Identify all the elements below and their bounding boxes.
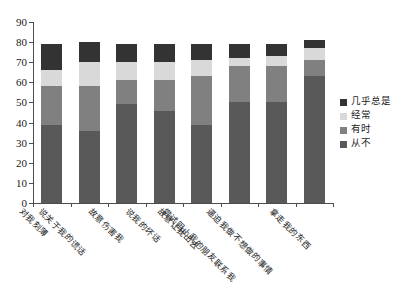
bar-segment: [304, 48, 325, 60]
x-tick: [296, 203, 297, 207]
x-tick: [108, 203, 109, 207]
bar-segment: [41, 125, 62, 203]
bar-stack: [154, 44, 175, 203]
y-tick-label: 50: [0, 97, 27, 108]
legend-label: 几乎总是: [351, 97, 391, 107]
legend-swatch-icon: [340, 141, 347, 148]
bar-segment: [191, 44, 212, 60]
stacked-bar-chart: 0102030405060708090 对我刻薄说关于我的谎话故意伤害我说我的坏…: [0, 0, 417, 307]
plot-area: [33, 22, 333, 203]
bar-segment: [154, 111, 175, 204]
bar-stack: [304, 40, 325, 203]
y-tick: [29, 82, 33, 83]
legend-label: 有时: [351, 125, 371, 135]
legend-swatch-icon: [340, 113, 347, 120]
x-tick: [33, 203, 34, 207]
bar-segment: [116, 44, 137, 62]
y-tick-label: 30: [0, 137, 27, 148]
bar-segment: [154, 44, 175, 62]
bar-segment: [79, 62, 100, 86]
bar-stack: [191, 44, 212, 203]
bar-segment: [191, 76, 212, 124]
y-tick-label: 90: [0, 17, 27, 28]
legend-label: 从不: [351, 139, 371, 149]
x-axis-label: 尝试阻止我的朋友联系我: [161, 207, 237, 283]
legend-item: 有时: [340, 123, 391, 137]
bar-segment: [154, 62, 175, 80]
bar-segment: [191, 125, 212, 203]
y-tick: [29, 62, 33, 63]
x-axis-label: 拿走我的东西: [268, 207, 312, 251]
bar-segment: [116, 62, 137, 80]
bar-segment: [79, 131, 100, 203]
y-tick: [29, 183, 33, 184]
x-tick: [183, 203, 184, 207]
bar-segment: [79, 42, 100, 62]
bar-segment: [79, 86, 100, 130]
y-tick: [29, 42, 33, 43]
bar-segment: [229, 44, 250, 58]
y-tick-label: 70: [0, 57, 27, 68]
bar-segment: [154, 80, 175, 110]
x-tick: [146, 203, 147, 207]
bar-segment: [41, 44, 62, 70]
x-axis-label: 故意伤害我: [87, 207, 125, 245]
bar-segment: [116, 80, 137, 104]
legend-item: 几乎总是: [340, 95, 391, 109]
bar-segment: [41, 86, 62, 124]
x-tick: [221, 203, 222, 207]
x-tick: [333, 203, 334, 207]
bar-stack: [266, 44, 287, 203]
y-tick: [29, 22, 33, 23]
x-tick: [258, 203, 259, 207]
legend-item: 从不: [340, 137, 391, 151]
bar-segment: [41, 70, 62, 86]
bar-segment: [304, 76, 325, 203]
y-tick-label: 60: [0, 77, 27, 88]
bar-segment: [116, 104, 137, 203]
bar-segment: [304, 60, 325, 76]
legend-swatch-icon: [340, 99, 347, 106]
bar-segment: [229, 58, 250, 66]
y-tick-label: 20: [0, 157, 27, 168]
bar-segment: [266, 44, 287, 56]
bar-stack: [229, 44, 250, 203]
y-tick-label: 40: [0, 117, 27, 128]
x-tick: [71, 203, 72, 207]
chart-legend: 几乎总是经常有时从不: [340, 95, 391, 151]
bar-stack: [41, 44, 62, 203]
bar-segment: [266, 66, 287, 102]
bar-stack: [116, 44, 137, 203]
legend-label: 经常: [351, 111, 371, 121]
legend-swatch-icon: [340, 127, 347, 134]
y-tick: [29, 143, 33, 144]
y-tick: [29, 163, 33, 164]
y-tick-label: 80: [0, 37, 27, 48]
bar-segment: [191, 60, 212, 76]
bar-segment: [266, 56, 287, 66]
bar-stack: [79, 42, 100, 203]
bar-segment: [304, 40, 325, 48]
y-tick: [29, 102, 33, 103]
bar-segment: [266, 102, 287, 203]
y-tick-label: 10: [0, 177, 27, 188]
bar-segment: [229, 66, 250, 102]
y-tick: [29, 123, 33, 124]
bar-segment: [229, 102, 250, 203]
legend-item: 经常: [340, 109, 391, 123]
